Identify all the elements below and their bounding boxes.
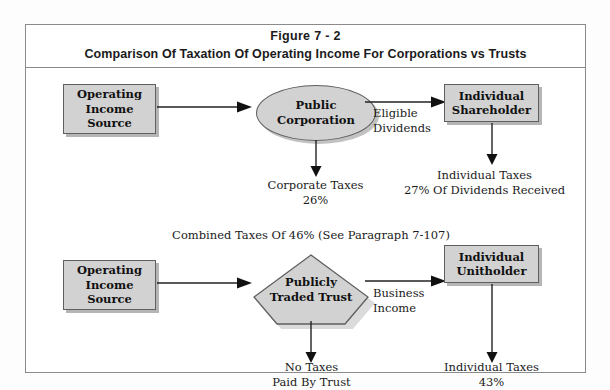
eligible-dividends-label: Eligible Dividends bbox=[373, 106, 431, 136]
combined-taxes-note: Combined Taxes Of 46% (See Paragraph 7-1… bbox=[136, 228, 486, 243]
no-taxes-line1: No Taxes bbox=[244, 360, 379, 375]
arrow-shareholder-to-individual-taxes bbox=[485, 123, 499, 167]
corporate-source-line1: Operating bbox=[77, 87, 142, 102]
corporate-source-box: Operating Income Source bbox=[63, 84, 156, 134]
individual-unitholder-line2: Unitholder bbox=[457, 264, 527, 279]
figure-number: Figure 7 - 2 bbox=[26, 28, 585, 45]
diagram-canvas: Operating Income Source Public Corporati… bbox=[26, 68, 587, 372]
public-corporation-line1: Public bbox=[296, 98, 337, 113]
business-income-line2: Income bbox=[373, 301, 424, 316]
individual-taxes-dividends-caption: Individual Taxes 27% Of Dividends Receiv… bbox=[382, 168, 587, 198]
arrow-source-to-corporation bbox=[157, 100, 257, 114]
figure-frame: Figure 7 - 2 Comparison Of Taxation Of O… bbox=[25, 24, 586, 373]
eligible-dividends-line2: Dividends bbox=[373, 121, 431, 136]
individual-taxes-43-line2: 43% bbox=[424, 375, 559, 390]
individual-taxes-43-caption: Individual Taxes 43% bbox=[424, 360, 559, 390]
public-corporation-line2: Corporation bbox=[277, 113, 355, 128]
corporate-source-line2: Income bbox=[86, 102, 134, 117]
individual-taxes-dividends-line1: Individual Taxes bbox=[382, 168, 587, 183]
trust-source-box: Operating Income Source bbox=[63, 260, 156, 310]
trust-source-line3: Source bbox=[87, 292, 132, 307]
individual-shareholder-line1: Individual bbox=[459, 89, 524, 104]
corporate-taxes-caption: Corporate Taxes 26% bbox=[248, 178, 383, 208]
figure-container: Figure 7 - 2 Comparison Of Taxation Of O… bbox=[0, 0, 610, 390]
individual-shareholder-line2: Shareholder bbox=[452, 103, 531, 118]
corporate-source-line3: Source bbox=[87, 116, 132, 131]
eligible-dividends-line1: Eligible bbox=[373, 106, 431, 121]
publicly-traded-trust-pentagon: Publicly Traded Trust bbox=[251, 253, 371, 323]
figure-title: Comparison Of Taxation Of Operating Inco… bbox=[26, 45, 585, 63]
arrow-source-to-trust bbox=[157, 276, 257, 290]
no-taxes-line2: Paid By Trust bbox=[244, 375, 379, 390]
public-corporation-ellipse: Public Corporation bbox=[256, 85, 376, 141]
trust-source-line1: Operating bbox=[77, 263, 142, 278]
individual-unitholder-line1: Individual bbox=[459, 250, 524, 265]
business-income-line1: Business bbox=[373, 286, 424, 301]
arrow-trust-to-no-taxes bbox=[304, 321, 318, 365]
business-income-label: Business Income bbox=[373, 286, 424, 316]
trust-source-line2: Income bbox=[86, 278, 134, 293]
figure-header: Figure 7 - 2 Comparison Of Taxation Of O… bbox=[26, 25, 585, 68]
individual-unitholder-box: Individual Unitholder bbox=[444, 245, 539, 283]
corporate-taxes-line2: 26% bbox=[248, 193, 383, 208]
corporate-taxes-line1: Corporate Taxes bbox=[248, 178, 383, 193]
individual-taxes-dividends-line2: 27% Of Dividends Received bbox=[382, 183, 587, 198]
individual-taxes-43-line1: Individual Taxes bbox=[424, 360, 559, 375]
individual-shareholder-box: Individual Shareholder bbox=[444, 84, 539, 122]
no-taxes-caption: No Taxes Paid By Trust bbox=[244, 360, 379, 390]
arrow-corporation-to-corporate-taxes bbox=[309, 140, 323, 178]
arrow-unitholder-to-individual-taxes bbox=[485, 284, 499, 365]
